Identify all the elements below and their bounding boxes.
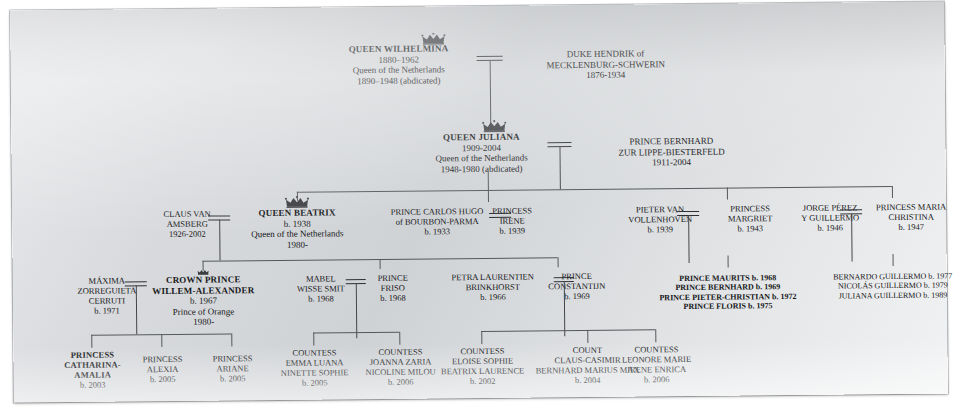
person-queen-wilhelmina: QUEEN WILHELMINA 1880–1962 Queen of the … xyxy=(298,43,498,87)
descent-drop-irene xyxy=(488,172,489,190)
descent-drop-catharina-amalia xyxy=(91,335,92,348)
person-crown-prince-willem-alexander: CROWN PRINCE WILLEM-ALEXANDER b. 1967 Pr… xyxy=(141,274,267,328)
person-prince-bernhard: PRINCE BERNHARD ZUR LIPPE-BIESTERFELD 19… xyxy=(571,135,771,169)
person-queen-juliana: QUEEN JULIANA 1909-2004 Queen of the Net… xyxy=(381,131,581,175)
descent-drop-eloise-sophie xyxy=(481,331,482,344)
person-reign: 1980- xyxy=(222,239,372,251)
descent-drop-maria-christina xyxy=(892,186,893,198)
genealogy-chart-photo: QUEEN WILHELMINA 1880–1962 Queen of the … xyxy=(0,0,958,420)
crown-icon xyxy=(284,196,310,209)
descent-drop-friso xyxy=(380,259,381,269)
person-dates: b. 1939 xyxy=(464,225,560,236)
descent-drop-margriet-children xyxy=(728,256,729,268)
list-item: JULIANA GUILLERMO b. 1989 xyxy=(786,290,958,301)
crown-icon xyxy=(197,269,210,276)
list-christina-children: BERNARDO GUILLERMO b. 1977 NICOLÁS GUILL… xyxy=(786,271,958,301)
person-dates: 1876-1934 xyxy=(506,69,706,82)
descent-drop-christina-children xyxy=(893,254,894,266)
person-reign: 1948-1980 (abdicated) xyxy=(382,163,582,176)
descent-drop-leonore-marie xyxy=(655,329,656,342)
descent-drop-emma-luana xyxy=(313,333,314,346)
person-prince-friso: PRINCE FRISO b. 1968 xyxy=(353,272,433,303)
person-pieter-van-vollenhoven: PIETER VAN VOLLENHOVEN b. 1939 xyxy=(605,204,715,235)
descent-drop-irene-lower xyxy=(488,190,489,202)
person-reign: 1890–1948 (abdicated) xyxy=(299,75,499,88)
person-prince-constantijn: PRINCE CONSTANTIJN b. 1969 xyxy=(525,271,629,302)
descent-drop-joanna-zaria xyxy=(399,332,400,345)
list-item: PRINCE FLORIS b. 1975 xyxy=(620,301,836,313)
person-queen-beatrix: QUEEN BEATRIX b. 1938 Queen of the Nethe… xyxy=(222,207,372,251)
crown-icon xyxy=(420,32,446,45)
person-dates: b. 1947 xyxy=(855,221,958,232)
descent-drop-constantijn xyxy=(558,257,559,267)
person-name-line-1: PRINCESS MARIA xyxy=(855,201,958,212)
crown-icon xyxy=(481,120,507,133)
descent-drop-ariane xyxy=(231,333,232,346)
person-dates: b. 1939 xyxy=(605,224,715,235)
person-dates: b. 2006 xyxy=(598,374,716,385)
person-princess-irene: PRINCESS IRENE b. 1939 xyxy=(464,205,560,236)
descent-drop-claus-casimir xyxy=(587,330,588,343)
sibling-bus-constantijn-children xyxy=(481,329,655,332)
person-princess-maria-christina: PRINCESS MARIA CHRISTINA b. 1947 xyxy=(855,201,958,232)
person-countess-leonore-marie: COUNTESS LEONORE MARIE IRENE ENRICA b. 2… xyxy=(597,344,715,385)
chart-content: QUEEN WILHELMINA 1880–1962 Queen of the … xyxy=(10,2,948,403)
person-dates: b. 1969 xyxy=(525,291,629,302)
sibling-bus-juliana-children xyxy=(297,186,892,193)
descent-drop-alexia xyxy=(161,334,162,347)
person-name-line-2: WILLEM-ALEXANDER xyxy=(141,285,266,297)
chart-sheet: QUEEN WILHELMINA 1880–1962 Queen of the … xyxy=(10,2,948,403)
person-dates: b. 1968 xyxy=(353,292,433,303)
person-dates: 1911-2004 xyxy=(572,156,772,169)
person-title-since: 1980- xyxy=(141,316,266,328)
person-duke-hendrik: DUKE HENDRIK of MECKLENBURG-SCHWERIN 187… xyxy=(506,48,706,82)
descent-drop-margriet xyxy=(727,188,728,200)
